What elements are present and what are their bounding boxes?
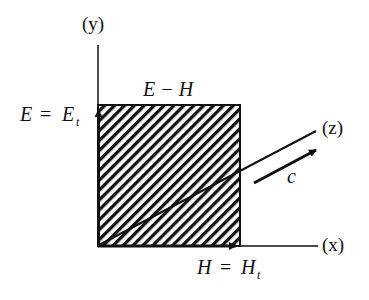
e-field-label: E = E t <box>19 103 80 129</box>
h-rhs: H <box>240 256 257 278</box>
y-axis-label: (y) <box>82 13 104 35</box>
propagation-label: c <box>287 165 296 187</box>
x-axis-label: (x) <box>322 234 344 256</box>
h-field-label: H = H t <box>196 256 261 282</box>
hatched-fill <box>98 105 240 246</box>
e-h-plane <box>98 105 240 246</box>
z-axis-label: (z) <box>322 117 343 139</box>
e-rhs: E <box>61 103 74 125</box>
h-equals: = <box>220 256 231 278</box>
h-subscript: t <box>257 268 261 282</box>
e-equals: = <box>40 103 51 125</box>
em-wave-diagram: (y) (x) (z) E − H E = E t H = H t c <box>0 0 369 300</box>
propagation-arrow <box>254 150 316 183</box>
e-subscript: t <box>76 115 80 129</box>
plane-label: E − H <box>142 78 195 100</box>
e-lhs: E <box>19 103 32 125</box>
h-lhs: H <box>196 256 213 278</box>
